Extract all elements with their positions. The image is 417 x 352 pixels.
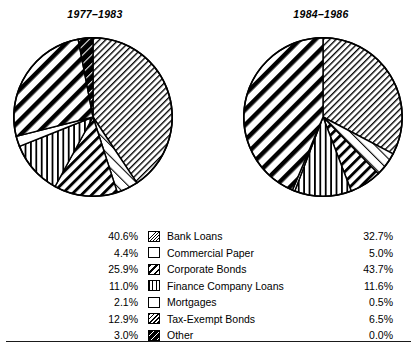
legend-row: 25.9% Corporate Bonds 43.7% bbox=[0, 261, 417, 278]
legend-swatch-finance-company-loans-icon bbox=[148, 280, 160, 291]
legend-swatch-bank-loans-icon bbox=[148, 231, 160, 242]
value-left-finance-company-loans: 11.0% bbox=[0, 280, 148, 292]
legend-swatch-mortgages-icon bbox=[148, 297, 160, 308]
value-left-bank-loans: 40.6% bbox=[0, 230, 148, 242]
value-right-corporate-bonds: 43.7% bbox=[325, 263, 417, 275]
legend-swatch-corporate-bonds-icon bbox=[148, 264, 160, 275]
bottom-divider bbox=[6, 341, 411, 342]
legend-swatch-commercial-paper-icon bbox=[148, 247, 160, 258]
legend-row: 40.6% Bank Loans 32.7% bbox=[0, 228, 417, 245]
legend-label-bank-loans: Bank Loans bbox=[160, 230, 325, 242]
chart-title-left: 1977–1983 bbox=[0, 8, 190, 20]
value-right-finance-company-loans: 11.6% bbox=[325, 280, 417, 292]
pie-chart-1977-1983 bbox=[3, 27, 183, 207]
chart-title-right: 1984–1986 bbox=[226, 8, 416, 20]
legend-label-commercial-paper: Commercial Paper bbox=[160, 247, 325, 259]
value-right-commercial-paper: 5.0% bbox=[325, 247, 417, 259]
chart-legend: 40.6% Bank Loans 32.7% 4.4% Commercial P… bbox=[0, 228, 417, 344]
legend-swatch-tax-exempt-bonds-icon bbox=[148, 313, 160, 324]
pie-chart-1984-1986 bbox=[233, 27, 413, 207]
value-left-corporate-bonds: 25.9% bbox=[0, 263, 148, 275]
legend-label-tax-exempt-bonds: Tax-Exempt Bonds bbox=[160, 313, 325, 325]
value-right-mortgages: 0.5% bbox=[325, 296, 417, 308]
value-left-tax-exempt-bonds: 12.9% bbox=[0, 313, 148, 325]
value-right-bank-loans: 32.7% bbox=[325, 230, 417, 242]
pie-chart-figure: 1977–1983 1984–1986 bbox=[0, 0, 417, 352]
value-right-tax-exempt-bonds: 6.5% bbox=[325, 313, 417, 325]
legend-label-finance-company-loans: Finance Company Loans bbox=[160, 280, 325, 292]
legend-swatch-other-icon bbox=[148, 330, 160, 341]
legend-row: 11.0% Finance Company Loans 11.6% bbox=[0, 278, 417, 295]
legend-label-mortgages: Mortgages bbox=[160, 296, 325, 308]
value-right-other: 0.0% bbox=[325, 329, 417, 341]
legend-row: 4.4% Commercial Paper 5.0% bbox=[0, 245, 417, 262]
value-left-mortgages: 2.1% bbox=[0, 296, 148, 308]
legend-row: 2.1% Mortgages 0.5% bbox=[0, 294, 417, 311]
legend-label-corporate-bonds: Corporate Bonds bbox=[160, 263, 325, 275]
value-left-other: 3.0% bbox=[0, 329, 148, 341]
legend-row: 12.9% Tax-Exempt Bonds 6.5% bbox=[0, 311, 417, 328]
value-left-commercial-paper: 4.4% bbox=[0, 247, 148, 259]
legend-label-other: Other bbox=[160, 329, 325, 341]
